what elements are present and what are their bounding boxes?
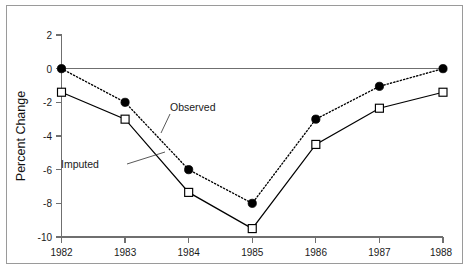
marker-imputed-1987: [375, 104, 383, 112]
y-tick-label-0: 0: [46, 64, 52, 75]
x-axis-ticks: [62, 237, 444, 243]
marker-imputed-1988: [439, 88, 447, 96]
y-tick-label-neg10: -10: [38, 232, 53, 243]
x-tick-label-1982: 1982: [50, 247, 73, 258]
marker-observed-1987: [375, 82, 383, 90]
marker-imputed-1985: [248, 225, 256, 233]
y-tick-label-neg8: -8: [43, 198, 52, 209]
observed-line: [62, 69, 444, 204]
imputed-line: [62, 92, 444, 228]
marker-observed-1984: [185, 166, 193, 174]
imputed-annotation-label: Imputed: [61, 158, 99, 170]
observed-markers: [57, 65, 447, 208]
x-tick-label-1987: 1987: [368, 247, 391, 258]
series-imputed: [62, 92, 444, 228]
marker-observed-1986: [312, 115, 320, 123]
x-tick-label-1988: 1988: [430, 247, 453, 258]
y-tick-label-neg2: -2: [43, 97, 52, 108]
x-tick-label-1984: 1984: [178, 247, 201, 258]
observed-leader-line: [161, 114, 170, 133]
x-tick-label-1985: 1985: [241, 247, 264, 258]
observed-annotation-label: Observed: [170, 101, 216, 113]
y-tick-label-neg6: -6: [43, 165, 52, 176]
marker-imputed-1984: [185, 188, 193, 196]
marker-imputed-1986: [312, 140, 320, 148]
y-tick-label-neg4: -4: [43, 131, 52, 142]
line-chart: 2 0 -2 -4 -6 -8 -10 1982 1983 1984 1985: [0, 0, 470, 271]
marker-observed-1988: [439, 65, 447, 73]
marker-observed-1982: [57, 65, 65, 73]
marker-imputed-1983: [121, 115, 129, 123]
figure-container: 2 0 -2 -4 -6 -8 -10 1982 1983 1984 1985: [0, 0, 470, 271]
marker-observed-1983: [121, 98, 129, 106]
x-tick-label-1986: 1986: [305, 247, 328, 258]
observed-annotation: Observed: [161, 101, 216, 133]
imputed-markers: [58, 88, 448, 232]
y-tick-label-2: 2: [46, 30, 52, 41]
y-axis-title: Percent Change: [14, 91, 28, 181]
series-observed: [62, 69, 444, 204]
y-axis-group: 2 0 -2 -4 -6 -8 -10: [38, 30, 62, 243]
marker-observed-1985: [248, 199, 256, 207]
x-tick-label-1983: 1983: [114, 247, 137, 258]
marker-imputed-1982: [58, 88, 66, 96]
x-axis-group: 1982 1983 1984 1985 1986 1987 1988: [50, 237, 452, 258]
imputed-annotation: Imputed: [61, 152, 165, 170]
